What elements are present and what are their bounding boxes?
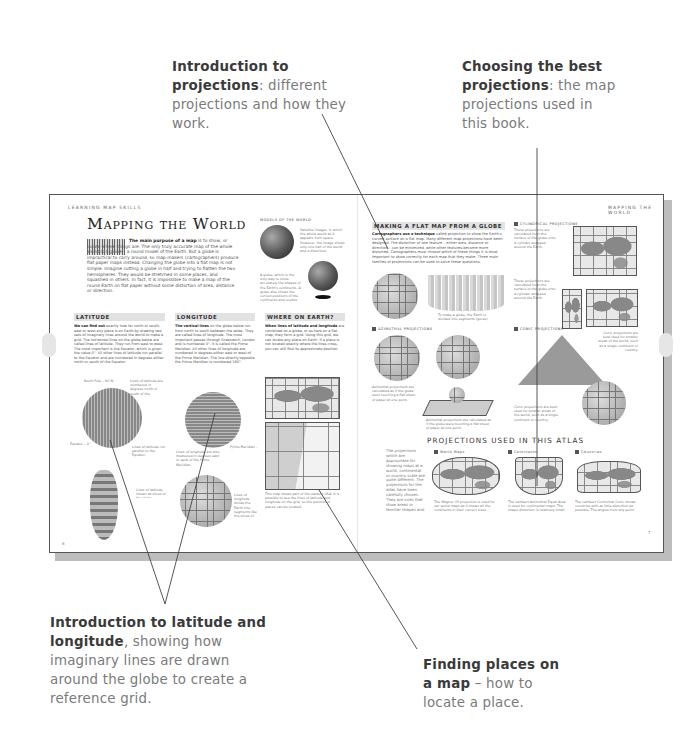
leader-finding bbox=[319, 490, 417, 649]
callout-latitude-longitude: Introduction to latitude and longitude, … bbox=[50, 613, 275, 708]
leader-latitude bbox=[110, 440, 165, 604]
leader-longitude bbox=[165, 413, 215, 604]
callout-finding-places: Finding places on a map – how to locate … bbox=[423, 655, 568, 712]
leader-projections bbox=[322, 114, 388, 249]
